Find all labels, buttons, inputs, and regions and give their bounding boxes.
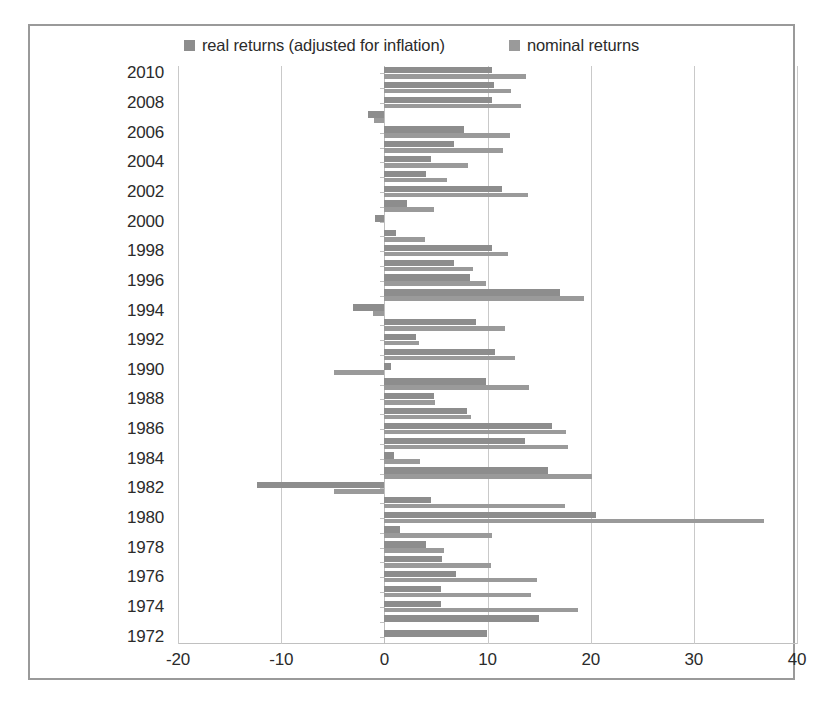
chart-row bbox=[178, 585, 797, 600]
bar-real-1981 bbox=[384, 497, 430, 503]
bar-real-1989 bbox=[384, 378, 486, 384]
y-axis-label-2002: 2002 bbox=[127, 182, 164, 202]
chart-row bbox=[178, 600, 797, 615]
chart-row bbox=[178, 481, 797, 496]
bar-nominal-1974 bbox=[384, 608, 578, 613]
y-axis-label-1996: 1996 bbox=[127, 271, 164, 291]
bar-real-1976 bbox=[384, 571, 455, 577]
bar-real-1972 bbox=[384, 630, 487, 636]
bar-nominal-1981 bbox=[384, 504, 565, 509]
chart-row bbox=[178, 570, 797, 585]
chart-legend: real returns (adjusted for inflation) no… bbox=[30, 32, 793, 58]
legend-entry-real: real returns (adjusted for inflation) bbox=[184, 36, 445, 55]
bar-real-1984 bbox=[384, 452, 393, 458]
x-axis-label--10: -10 bbox=[269, 650, 293, 670]
chart-row bbox=[178, 362, 797, 377]
bar-real-1988 bbox=[384, 393, 434, 399]
chart-row bbox=[178, 555, 797, 570]
y-axis-labels: 2010200820062004200220001998199619941992… bbox=[60, 66, 172, 644]
chart-row bbox=[178, 392, 797, 407]
legend-swatch-real-icon bbox=[184, 40, 195, 51]
bar-real-2004 bbox=[384, 156, 430, 162]
x-axis-labels: -20-10010203040 bbox=[178, 650, 797, 680]
bar-real-2003 bbox=[384, 171, 425, 177]
bar-real-2001 bbox=[384, 200, 407, 206]
chart-row bbox=[178, 303, 797, 318]
gridline-x-40 bbox=[797, 66, 798, 644]
y-axis-label-1994: 1994 bbox=[127, 301, 164, 321]
bar-real-1985 bbox=[384, 438, 524, 444]
bar-nominal-1999 bbox=[384, 237, 424, 242]
bar-nominal-2008 bbox=[384, 104, 520, 109]
bar-real-2008 bbox=[384, 97, 491, 103]
y-axis-label-1972: 1972 bbox=[127, 627, 164, 647]
chart-row bbox=[178, 214, 797, 229]
bar-nominal-1976 bbox=[384, 578, 537, 583]
bar-nominal-1980 bbox=[384, 519, 764, 524]
chart-row bbox=[178, 614, 797, 629]
legend-label-real: real returns (adjusted for inflation) bbox=[202, 36, 445, 55]
y-axis-tick bbox=[380, 622, 384, 623]
bar-nominal-2009 bbox=[384, 89, 511, 94]
bar-nominal-1993 bbox=[384, 326, 505, 331]
bar-nominal-1988 bbox=[384, 400, 435, 405]
bar-real-2009 bbox=[384, 82, 493, 88]
y-axis-label-1986: 1986 bbox=[127, 419, 164, 439]
y-axis-label-1976: 1976 bbox=[127, 567, 164, 587]
chart-row bbox=[178, 511, 797, 526]
bar-nominal-2010 bbox=[384, 74, 525, 79]
bar-nominal-2004 bbox=[384, 163, 468, 168]
chart-row bbox=[178, 155, 797, 170]
bar-real-1978 bbox=[384, 541, 425, 547]
y-axis-label-1978: 1978 bbox=[127, 538, 164, 558]
bar-real-1996 bbox=[384, 274, 470, 280]
y-axis-label-2000: 2000 bbox=[127, 212, 164, 232]
y-axis-label-2008: 2008 bbox=[127, 93, 164, 113]
chart-row bbox=[178, 540, 797, 555]
chart-row bbox=[178, 66, 797, 81]
bar-real-1987 bbox=[384, 408, 467, 414]
bar-nominal-1996 bbox=[384, 281, 486, 286]
chart-row bbox=[178, 333, 797, 348]
x-axis-label-40: 40 bbox=[788, 650, 807, 670]
bar-real-1980 bbox=[384, 512, 595, 518]
x-axis-label-10: 10 bbox=[478, 650, 497, 670]
y-axis-tick bbox=[380, 637, 384, 638]
chart-row bbox=[178, 422, 797, 437]
y-axis-label-1988: 1988 bbox=[127, 389, 164, 409]
legend-swatch-nominal-icon bbox=[509, 40, 520, 51]
bar-real-1998 bbox=[384, 245, 491, 251]
legend-entry-nominal: nominal returns bbox=[509, 36, 639, 55]
plot-area bbox=[178, 66, 797, 644]
chart-row bbox=[178, 199, 797, 214]
bar-nominal-1975 bbox=[384, 593, 530, 598]
bar-real-1986 bbox=[384, 423, 552, 429]
bar-nominal-1995 bbox=[384, 296, 584, 301]
chart-row bbox=[178, 125, 797, 140]
chart-row bbox=[178, 348, 797, 363]
chart-row bbox=[178, 81, 797, 96]
legend-label-nominal: nominal returns bbox=[527, 36, 639, 55]
chart-row bbox=[178, 244, 797, 259]
chart-row bbox=[178, 229, 797, 244]
chart-row bbox=[178, 288, 797, 303]
bar-real-1999 bbox=[384, 230, 395, 236]
bar-nominal-2002 bbox=[384, 193, 527, 198]
y-axis-label-1984: 1984 bbox=[127, 449, 164, 469]
chart-row bbox=[178, 377, 797, 392]
y-axis-label-1998: 1998 bbox=[127, 241, 164, 261]
bar-real-1982 bbox=[257, 482, 384, 488]
bar-nominal-1992 bbox=[384, 341, 419, 346]
x-axis-label-20: 20 bbox=[581, 650, 600, 670]
y-axis-label-1982: 1982 bbox=[127, 478, 164, 498]
x-axis-label-0: 0 bbox=[380, 650, 389, 670]
bar-nominal-1983 bbox=[384, 474, 591, 479]
chart-row bbox=[178, 525, 797, 540]
chart-row bbox=[178, 496, 797, 511]
chart-row bbox=[178, 407, 797, 422]
bar-nominal-1989 bbox=[384, 385, 528, 390]
bar-real-2005 bbox=[384, 141, 454, 147]
bar-real-1975 bbox=[384, 586, 441, 592]
bar-nominal-1978 bbox=[384, 548, 444, 553]
bar-nominal-1991 bbox=[384, 356, 515, 361]
